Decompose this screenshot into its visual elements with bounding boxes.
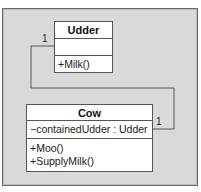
attribute: −containedUdder : Udder: [30, 123, 152, 136]
attributes-section: −containedUdder : Udder: [27, 121, 152, 139]
method: +Milk(): [58, 58, 112, 71]
class-cow[interactable]: Cow −containedUdder : Udder +Moo() +Supp…: [26, 104, 153, 172]
udder-multiplicity: 1: [42, 33, 48, 44]
class-udder[interactable]: Udder +Milk(): [54, 21, 113, 73]
class-name: Udder: [55, 22, 112, 39]
methods-section: +Moo() +SupplyMilk(): [27, 139, 152, 171]
methods-section: +Milk(): [55, 56, 112, 72]
method: +SupplyMilk(): [30, 155, 152, 168]
cow-multiplicity: 1: [156, 116, 162, 127]
attributes-section: [55, 39, 112, 56]
class-name: Cow: [27, 105, 152, 121]
method: +Moo(): [30, 142, 152, 155]
